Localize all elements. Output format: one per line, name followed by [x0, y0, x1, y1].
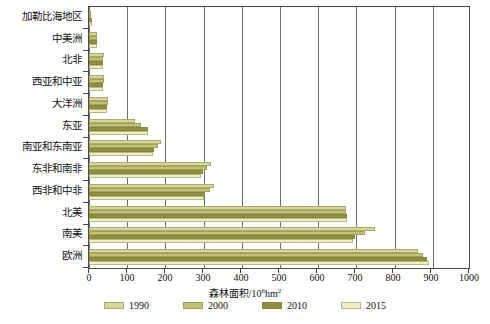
legend-item[interactable]: 1990	[104, 300, 149, 311]
category-tick	[83, 71, 88, 72]
x-axis-tick-label: 500	[272, 272, 287, 283]
legend-label: 2010	[287, 300, 307, 311]
category-tick	[83, 28, 88, 29]
x-axis-tick-label: 1000	[459, 272, 479, 283]
x-axis-tick-label: 0	[87, 272, 92, 283]
legend-swatch	[104, 302, 124, 309]
legend-swatch	[262, 302, 282, 309]
x-axis-title-unit-exponent: 2	[278, 287, 282, 295]
category-tick	[83, 224, 88, 225]
category-tick	[83, 158, 88, 159]
bar	[89, 131, 148, 135]
category-tick	[83, 50, 88, 51]
x-axis-tick-label: 800	[386, 272, 401, 283]
category-label: 西非和中非	[32, 185, 82, 196]
bars-layer	[89, 7, 469, 268]
category-tick	[83, 180, 88, 181]
category-label: 加勒比海地区	[22, 11, 82, 22]
bar	[89, 87, 103, 91]
category-label: 东亚	[62, 120, 82, 131]
legend-item[interactable]: 2015	[341, 300, 386, 311]
category-tick	[83, 202, 88, 203]
x-axis-tick-label: 200	[158, 272, 173, 283]
forest-area-bar-chart: 加勒比海地区中美洲北非西亚和中亚大洋洲东亚南亚和东南亚东非和南非西非和中非北美南…	[0, 0, 490, 324]
x-axis-tick-label: 400	[234, 272, 249, 283]
chart-legend: 1990200020102015	[0, 300, 490, 311]
bar	[89, 239, 353, 243]
bar	[89, 44, 97, 48]
bar	[89, 152, 153, 156]
category-label: 北非	[62, 54, 82, 65]
bar	[89, 196, 204, 200]
x-axis-title-unit: hm	[265, 288, 278, 299]
category-label: 西亚和中亚	[32, 76, 82, 87]
x-axis-tick-label: 300	[196, 272, 211, 283]
category-tick	[83, 245, 88, 246]
legend-label: 2015	[366, 300, 386, 311]
category-label: 中美洲	[52, 33, 82, 44]
bar	[89, 174, 201, 178]
category-label: 南美	[62, 228, 82, 239]
bar	[89, 261, 429, 265]
category-label: 欧洲	[62, 250, 82, 261]
legend-swatch	[183, 302, 203, 309]
x-axis-title: 森林面积/106hm2	[0, 285, 490, 300]
x-axis-tick-label: 600	[310, 272, 325, 283]
category-label: 南亚和东南亚	[22, 141, 82, 152]
category-tick	[83, 267, 88, 268]
legend-label: 1990	[129, 300, 149, 311]
legend-item[interactable]: 2010	[262, 300, 307, 311]
category-label: 东非和南非	[32, 163, 82, 174]
legend-swatch	[341, 302, 361, 309]
bar	[89, 22, 92, 26]
legend-label: 2000	[208, 300, 228, 311]
category-label: 大洋洲	[52, 98, 82, 109]
bar	[89, 218, 347, 222]
x-axis-tick-label: 900	[424, 272, 439, 283]
bar	[89, 109, 107, 113]
category-tick	[83, 93, 88, 94]
category-label: 北美	[62, 207, 82, 218]
x-axis-title-text: 森林面积/10	[209, 288, 262, 299]
category-tick	[83, 115, 88, 116]
category-axis: 加勒比海地区中美洲北非西亚和中亚大洋洲东亚南亚和东南亚东非和南非西非和中非北美南…	[0, 6, 86, 269]
x-axis-tick-label: 700	[348, 272, 363, 283]
bar	[89, 65, 103, 69]
x-axis-tick-label: 100	[120, 272, 135, 283]
category-tick	[83, 137, 88, 138]
legend-item[interactable]: 2000	[183, 300, 228, 311]
